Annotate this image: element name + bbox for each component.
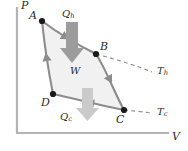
heat-in-label: Qh <box>62 9 75 20</box>
heat-in-label-subscript: h <box>70 12 74 20</box>
x-axis-label: V <box>172 131 180 142</box>
isotherm-cold-label: Tc <box>157 107 167 118</box>
isotherm-hot-label: Th <box>157 66 168 77</box>
state-point-A-dot[interactable] <box>39 18 45 24</box>
pv-diagram-figure: P V A B C D Qh Qc W Th Tc <box>0 0 188 151</box>
heat-in-label-symbol: Q <box>62 8 70 19</box>
heat-out-label-symbol: Q <box>60 111 68 122</box>
y-axis-label: P <box>21 0 28 11</box>
state-point-label-D: D <box>41 97 50 108</box>
work-label: W <box>70 66 80 76</box>
state-point-D-dot[interactable] <box>50 91 56 97</box>
isotherm-hot-label-symbol: T <box>157 65 164 76</box>
isotherm-cold-dashed <box>124 110 152 113</box>
heat-out-label-subscript: c <box>68 115 72 123</box>
state-point-B-dot[interactable] <box>93 51 99 57</box>
isotherm-cold-label-symbol: T <box>157 106 164 117</box>
state-point-label-A: A <box>29 10 37 21</box>
heat-out-label: Qc <box>60 112 72 123</box>
state-point-label-C: C <box>116 114 124 125</box>
isotherm-cold-label-subscript: c <box>164 110 168 118</box>
state-point-label-B: B <box>100 41 108 52</box>
isotherm-hot-label-subscript: h <box>164 69 168 77</box>
